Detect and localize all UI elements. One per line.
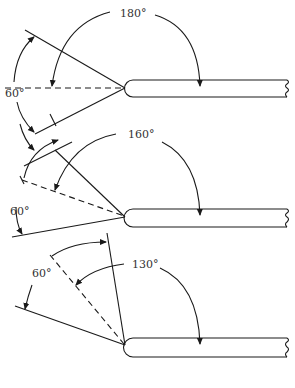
included-angle-label: 60° [5,87,25,100]
included-angle-label: 60° [32,267,52,280]
rotation-angle-label: 180° [120,7,147,20]
rotation-arc-right [155,15,200,86]
rotation-angle-label: 160° [128,128,155,141]
upper-arm [25,30,125,88]
rotation-arc-left [55,134,116,190]
bar-break-icon [286,338,289,357]
angle-diagram: 60° 180° 60° 160° 60° [0,0,295,388]
upper-arm [107,233,125,345]
included-angle-arc-upper [52,242,106,256]
rotation-arc-right [162,142,200,215]
panel-middle: 60° 160° [10,124,289,237]
rotation-arc-right [160,268,200,344]
rotation-arc-left [76,264,124,285]
reference-dashed-line [22,180,124,216]
rotation-angle-label: 130° [132,258,159,271]
lower-arm [35,88,125,134]
transition-arc [20,124,34,150]
bar [125,80,288,97]
included-angle-arc-upper [14,37,34,82]
panel-bottom: 60° 130° [15,233,289,357]
panel-top: 60° 180° [5,7,289,134]
included-angle-arc-lower [17,102,34,132]
diagram-canvas: 60° 180° 60° 160° 60° [0,0,295,388]
bar-break-icon [286,209,289,227]
upper-arm [55,150,125,217]
upper-arm-tick [24,142,72,166]
rotation-arc-left [52,12,110,86]
included-angle-arc-lower [25,285,32,309]
included-angle-label: 60° [10,205,30,218]
bar [124,338,288,357]
bar-break-icon [286,80,289,97]
lower-arm [12,217,125,237]
bar [124,209,287,227]
included-angle-arc-upper [24,140,58,178]
